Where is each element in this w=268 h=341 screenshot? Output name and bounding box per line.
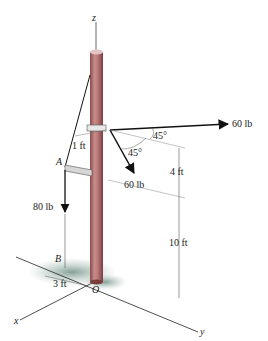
- force-60lb-horizontal-arrow: [110, 124, 228, 130]
- dim-3ft-label: 3 ft: [53, 278, 67, 289]
- angle-45-lower: 45°: [128, 147, 142, 158]
- force-60lb-horizontal-label: 60 lb: [232, 118, 252, 129]
- point-A-label: A: [55, 156, 63, 167]
- force-80lb-label: 80 lb: [33, 201, 53, 212]
- dim-1ft-label: 1 ft: [72, 140, 86, 151]
- dim-10ft-label: 10 ft: [169, 237, 188, 248]
- pole: [90, 52, 103, 282]
- collar-ring: [87, 125, 106, 131]
- dim-4ft-label: 4 ft: [170, 166, 184, 177]
- x-axis-label: x: [13, 315, 19, 326]
- statics-diagram: z x y 80 lb A B O 1 ft 60 lb 60 lb 45° 4…: [0, 0, 268, 341]
- z-axis-label: z: [91, 12, 96, 23]
- point-O-label: O: [92, 284, 99, 295]
- reference-line-lower: [108, 180, 185, 198]
- bracket-arm: [65, 165, 92, 176]
- cable: [65, 75, 90, 167]
- y-axis-label: y: [199, 326, 205, 337]
- point-B-label: B: [55, 253, 61, 264]
- pole-top: [90, 50, 103, 55]
- angle-45-upper: 45°: [153, 130, 167, 141]
- reference-line: [110, 130, 185, 148]
